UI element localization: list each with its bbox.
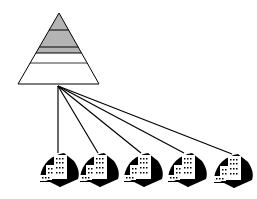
pyramid-band-5 — [0, 63, 257, 84]
building-icon — [168, 153, 207, 187]
building-icon — [214, 154, 253, 188]
pyramid — [0, 13, 257, 84]
hierarchy-diagram — [0, 0, 257, 199]
building-icons — [40, 153, 253, 188]
pyramid-band-2 — [0, 30, 257, 47]
pyramid-band-4 — [0, 53, 257, 63]
building-icon — [40, 153, 79, 187]
building-icon — [124, 153, 163, 187]
building-icon — [80, 153, 119, 187]
pyramid-band-1 — [0, 13, 257, 30]
connector-lines — [58, 86, 232, 154]
